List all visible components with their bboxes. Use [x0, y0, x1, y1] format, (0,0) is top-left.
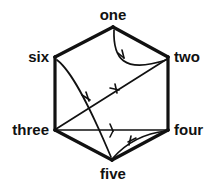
vertex-label-three: three: [12, 122, 49, 137]
vertex-dot-five: [110, 158, 114, 162]
vertex-label-five: five: [100, 166, 126, 181]
vertex-label-one: one: [100, 7, 127, 22]
arc-one-to-two: [114, 30, 166, 65]
edge-four-five: [112, 130, 168, 160]
edge-six-one: [55, 27, 113, 57]
vertex-label-four: four: [174, 122, 203, 137]
arc-six-to-five: [57, 60, 111, 157]
vertex-dot-four: [166, 128, 170, 132]
diagram-canvas: one two four five three six: [0, 0, 215, 189]
vertex-dot-three: [53, 128, 57, 132]
edge-one-two: [113, 27, 168, 57]
edge-three-to-two: [56, 59, 167, 129]
vertex-dot-six: [53, 55, 57, 59]
arrow-six-to-five: [82, 92, 90, 101]
graph-drawing: [0, 0, 215, 189]
vertex-dot-two: [166, 55, 170, 59]
vertex-label-six: six: [28, 49, 49, 64]
edge-five-three: [55, 130, 112, 160]
vertex-label-two: two: [174, 49, 200, 64]
vertex-dot-one: [111, 25, 115, 29]
